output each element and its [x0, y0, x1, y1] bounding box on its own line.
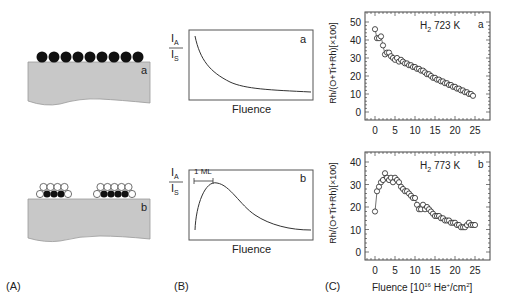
svg-text:20: 20 [350, 202, 362, 213]
svg-text:30: 30 [350, 53, 362, 64]
ylabel-ia: IA [171, 32, 179, 46]
adsorbate-atoms-islands [36, 183, 135, 197]
adsorbate-atoms-monolayer [37, 52, 144, 63]
scatter-charts: 0102030405005101520250102030400510152025 [320, 0, 509, 306]
svg-text:5: 5 [392, 125, 398, 136]
panel-a: a b (A) [0, 0, 165, 306]
legend-c-b: H2 773 K [420, 160, 460, 173]
ylabel-ia-b: IA [171, 166, 179, 180]
legend-c-a: H2 723 K [420, 20, 460, 33]
svg-text:30: 30 [350, 180, 362, 191]
tag-b-b: b [300, 172, 306, 184]
tag-a: a [141, 64, 147, 76]
svg-text:0: 0 [355, 107, 361, 118]
curve-b-a [195, 36, 311, 92]
curve-b-b [195, 183, 311, 230]
svg-text:10: 10 [409, 265, 421, 276]
tag-b-a: a [300, 33, 306, 45]
xlabel-fluence-bottom: Fluence [232, 243, 271, 255]
panel-label-b: (B) [174, 280, 189, 292]
tag-b: b [141, 201, 147, 213]
svg-text:10: 10 [409, 125, 421, 136]
panel-b: IA IS a Fluence IA IS 1 ML b Fluence (B) [160, 0, 320, 306]
ylabel-is: IS [171, 48, 179, 62]
svg-text:25: 25 [469, 125, 481, 136]
ylabel-c-b: Rh/(O+Ti+Rh)[×100] [328, 138, 338, 268]
svg-text:50: 50 [350, 17, 362, 28]
svg-text:10: 10 [350, 89, 362, 100]
svg-text:0: 0 [372, 265, 378, 276]
svg-text:20: 20 [449, 125, 461, 136]
svg-text:15: 15 [429, 265, 441, 276]
tag-c-a: a [478, 19, 484, 30]
svg-text:5: 5 [392, 265, 398, 276]
svg-text:25: 25 [469, 265, 481, 276]
marker-1ml: 1 ML [194, 167, 212, 176]
panel-c: 0102030405005101520250102030400510152025… [320, 0, 509, 306]
panel-label-c: (C) [325, 280, 340, 292]
svg-text:0: 0 [355, 247, 361, 258]
xlabel-fluence-top: Fluence [232, 103, 271, 115]
svg-text:20: 20 [449, 265, 461, 276]
svg-text:10: 10 [350, 225, 362, 236]
svg-text:0: 0 [372, 125, 378, 136]
ylabel-c-a: Rh/(O+Ti+Rh)[×100] [328, 0, 338, 128]
tag-c-b: b [478, 159, 484, 170]
svg-text:40: 40 [350, 157, 362, 168]
substrate-diagram [0, 0, 165, 306]
svg-text:40: 40 [350, 35, 362, 46]
svg-text:15: 15 [429, 125, 441, 136]
ylabel-is-b: IS [171, 182, 179, 196]
xlabel-c: Fluence [1016 He+/cm2] [372, 282, 472, 293]
svg-text:20: 20 [350, 71, 362, 82]
panel-label-a: (A) [6, 280, 21, 292]
